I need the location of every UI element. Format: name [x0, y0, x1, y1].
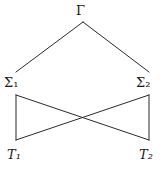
node-label-t1: T₁	[7, 148, 21, 161]
node-label-sigma1: Σ₁	[4, 76, 18, 89]
lattice-diagram: Γ Σ₁ Σ₂ T₁ T₂	[0, 0, 166, 169]
node-label-sigma2: Σ₂	[136, 76, 150, 89]
edge-gamma-sigma1	[16, 22, 83, 72]
edge-gamma-sigma2	[83, 22, 149, 72]
node-label-t2: T₂	[139, 148, 153, 161]
node-label-gamma: Γ	[76, 4, 85, 17]
